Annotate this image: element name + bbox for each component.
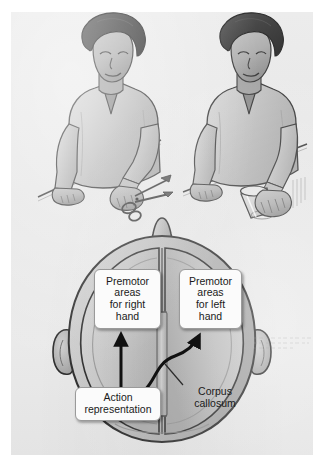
callout-action-representation: Action representation	[75, 387, 161, 421]
callout-premotor-areas-right-hand: Premotor areas for right hand	[94, 269, 161, 329]
leader-corpus-callosum	[165, 364, 183, 385]
hand-right-figure-resting	[190, 184, 222, 201]
ear-left-top-view	[53, 330, 75, 375]
ear-right-top-view	[249, 330, 271, 375]
callout-premotor-areas-left-hand: Premotor areas for left hand	[179, 269, 242, 329]
callout-line: hand	[189, 311, 232, 323]
illustration-person-scissors	[38, 13, 173, 222]
photo-panel	[11, 12, 313, 227]
hand-right-figure-glass	[255, 190, 291, 217]
illustration-person-glass	[183, 13, 307, 219]
callout-line: hand	[106, 311, 149, 323]
label-line: callosum	[194, 397, 235, 409]
callout-line: for right	[106, 299, 149, 311]
motion-hatching	[293, 177, 305, 208]
callout-line: representation	[84, 404, 151, 416]
reverse-page-showthrough	[254, 337, 313, 359]
callout-line: for left	[189, 299, 232, 311]
hand-left-figure-resting	[52, 188, 84, 205]
label-corpus-callosum: Corpus callosum	[184, 386, 246, 410]
label-line: Corpus	[198, 385, 232, 397]
figure-page: Premotor areas for right hand Premotor a…	[11, 12, 313, 455]
